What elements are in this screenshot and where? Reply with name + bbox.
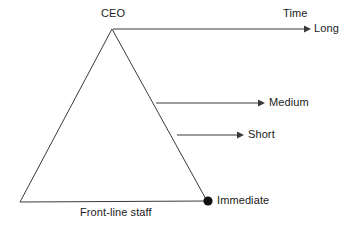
arrow-medium [156,100,265,107]
arrow-label-short: Short [248,128,275,141]
arrow-short-head-icon [237,132,244,139]
diagram-canvas: CEO Time Long Medium Short Immediate Fro… [0,0,354,229]
diagram-graphics [0,0,354,229]
arrow-label-long: Long [314,22,339,35]
arrow-long [113,26,311,33]
arrow-label-medium: Medium [269,96,309,109]
arrow-long-head-icon [304,26,311,33]
base-label-front-line-staff: Front-line staff [80,206,152,219]
apex-label-ceo: CEO [101,7,125,20]
immediate-marker-dot-icon [203,196,212,205]
arrow-medium-head-icon [258,100,265,107]
axis-label-time: Time [283,7,307,20]
hierarchy-triangle [20,29,207,202]
arrow-short [177,132,244,139]
marker-label-immediate: Immediate [217,194,269,207]
